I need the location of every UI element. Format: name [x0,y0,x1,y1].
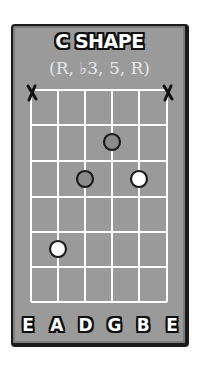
note-dot-g-fret2 [104,134,120,150]
note-dot-d-fret3 [77,171,93,187]
string-label-a: A [45,312,69,338]
string-label-d: D [74,312,98,338]
string-label-low-e: E [16,312,40,338]
root-dot-a-fret5 [50,241,66,257]
root-dot-b-fret3 [131,171,147,187]
grid-lines [31,90,167,302]
string-labels: E A D G B E [16,312,184,338]
string-label-high-e: E [160,312,184,338]
string-label-g: G [102,312,126,338]
string-label-b: B [131,312,155,338]
